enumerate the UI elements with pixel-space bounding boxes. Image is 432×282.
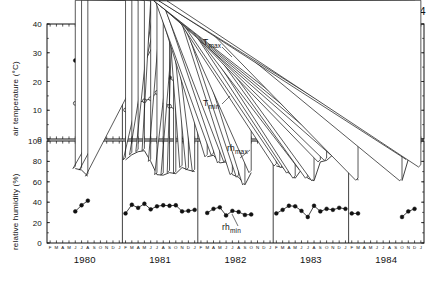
rhmin-text: rh bbox=[222, 222, 230, 232]
data-point-marker bbox=[174, 203, 178, 207]
series-label-tmin: Tmin bbox=[203, 98, 219, 110]
data-point-marker bbox=[212, 207, 216, 211]
data-point-marker bbox=[331, 208, 335, 212]
data-point-marker bbox=[193, 208, 197, 212]
tmin-sub: min bbox=[208, 103, 219, 110]
data-point-marker bbox=[180, 209, 184, 213]
data-point-marker bbox=[312, 204, 316, 208]
data-point-marker bbox=[186, 209, 190, 213]
data-point-marker bbox=[281, 208, 285, 212]
data-point-marker bbox=[130, 203, 134, 207]
data-point-marker bbox=[318, 209, 322, 213]
data-point-marker bbox=[350, 212, 354, 216]
data-point-marker bbox=[300, 209, 304, 213]
series-line bbox=[276, 206, 345, 217]
data-point-marker bbox=[413, 207, 417, 211]
data-point-marker bbox=[293, 204, 297, 208]
data-point-marker bbox=[161, 203, 165, 207]
data-point-marker bbox=[287, 204, 291, 208]
data-point-marker bbox=[243, 213, 247, 217]
data-point-marker bbox=[86, 199, 90, 203]
data-point-marker bbox=[168, 204, 172, 208]
data-point-marker bbox=[224, 214, 228, 218]
tmax-sub: max bbox=[208, 42, 221, 49]
data-point-marker bbox=[400, 215, 404, 219]
series-label-rhmax: rhmax bbox=[227, 143, 248, 155]
rhmin-sub: min bbox=[230, 227, 241, 234]
data-point-marker bbox=[73, 209, 77, 213]
data-point-marker bbox=[142, 202, 146, 206]
data-point-marker bbox=[406, 209, 410, 213]
rhmax-sub: max bbox=[235, 148, 248, 155]
data-point-marker bbox=[274, 212, 278, 216]
data-point-marker bbox=[337, 206, 341, 210]
data-point-marker bbox=[218, 205, 222, 209]
data-point-marker bbox=[356, 212, 360, 216]
data-point-marker bbox=[306, 215, 310, 219]
data-point-marker bbox=[80, 203, 84, 207]
data-point-marker bbox=[205, 211, 209, 215]
data-point-marker bbox=[155, 204, 159, 208]
data-point-marker bbox=[344, 207, 348, 211]
data-point-marker bbox=[230, 209, 234, 213]
series-line bbox=[126, 204, 195, 214]
data-point-marker bbox=[237, 210, 241, 214]
data-point-marker bbox=[325, 207, 329, 211]
figure: Richtersveld, 1980 - 1984 air temperatur… bbox=[0, 0, 432, 282]
series-label-rhmin: rhmin bbox=[222, 222, 241, 234]
series-label-tmax: Tmax bbox=[203, 37, 221, 49]
rhmax-text: rh bbox=[227, 143, 235, 153]
data-point-marker bbox=[249, 213, 253, 217]
data-point-marker bbox=[149, 207, 153, 211]
data-point-marker bbox=[136, 206, 140, 210]
data-point-marker bbox=[124, 212, 128, 216]
